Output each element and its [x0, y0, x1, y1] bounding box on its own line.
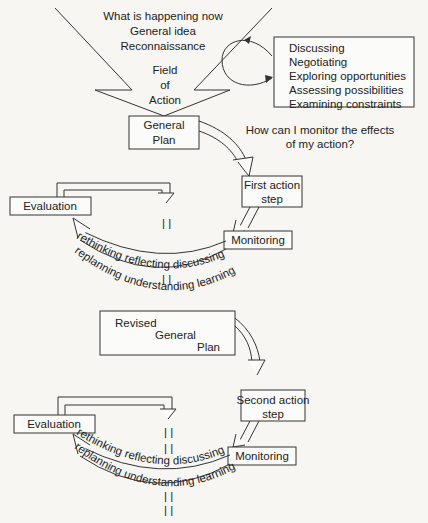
evaluation-label: Evaluation — [27, 418, 81, 430]
revised-general-plan-box: Revised General Plan — [100, 311, 235, 355]
monitoring-label: Monitoring — [231, 234, 285, 246]
activity-examining: Examining constraints — [289, 98, 402, 110]
activity-exploring: Exploring opportunities — [289, 70, 406, 82]
revised-plan-line-2: General — [155, 329, 196, 341]
first-action-line-1: First action — [244, 179, 300, 191]
revised-plan-line-1: Revised — [115, 317, 157, 329]
general-plan-line-1: General — [144, 119, 185, 131]
first-action-line-2: step — [261, 193, 283, 205]
second-action-line-2: step — [262, 408, 284, 420]
revised-plan-line-3: Plan — [197, 341, 220, 353]
side-loop-arrows — [222, 36, 273, 85]
field-line-2: of — [160, 79, 170, 91]
continuation-marks: | | — [164, 426, 173, 438]
field-line-1: Field — [153, 64, 178, 76]
continuation-marks: | | — [164, 490, 173, 502]
action-research-diagram: What is happening now General idea Recon… — [0, 0, 428, 523]
general-plan-box: General Plan — [129, 116, 199, 149]
cycle-1: First action step Monitoring Evaluation … — [10, 176, 302, 292]
activity-discussing: Discussing — [289, 42, 345, 54]
second-action-line-1: Second action — [237, 394, 310, 406]
context-line-1: What is happening now — [103, 10, 223, 22]
continuation-marks: | | — [164, 442, 173, 454]
general-plan-line-2: Plan — [152, 134, 175, 146]
cycle-2: Second action step Monitoring Evaluation… — [14, 390, 309, 516]
continuation-marks: | | — [164, 504, 173, 516]
monitor-question-line-1: How can I monitor the effects — [246, 124, 395, 136]
activity-negotiating: Negotiating — [289, 56, 347, 68]
continuation-marks: | | — [162, 273, 171, 285]
side-activities-box: Discussing Negotiating Exploring opportu… — [274, 37, 414, 110]
context-line-3: Reconnaissance — [120, 40, 205, 52]
arrowhead-icon — [265, 75, 273, 83]
field-line-3: Action — [149, 94, 181, 106]
arrowhead-icon — [244, 36, 251, 44]
context-line-2: General idea — [130, 25, 196, 37]
monitoring-label: Monitoring — [235, 450, 289, 462]
revised-to-action-arrow — [235, 318, 265, 375]
activity-assessing: Assessing possibilities — [289, 84, 404, 96]
monitor-question-line-2: of my action? — [286, 138, 354, 150]
evaluation-label: Evaluation — [23, 200, 77, 212]
top-context-text: What is happening now General idea Recon… — [103, 10, 223, 106]
continuation-marks: | | — [162, 217, 171, 229]
monitor-question: How can I monitor the effects of my acti… — [246, 124, 395, 150]
